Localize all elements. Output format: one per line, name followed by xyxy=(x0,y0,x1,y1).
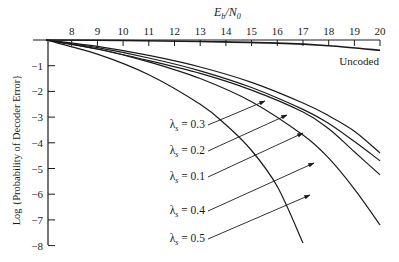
annotation-label: λs = 0.5 xyxy=(170,232,206,247)
svg-text:Eb/N0: Eb/N0 xyxy=(213,5,241,21)
x-tick-label: 15 xyxy=(246,25,258,37)
uncoded-label: Uncoded xyxy=(339,55,379,67)
annotation-arrow xyxy=(208,195,310,239)
chart: Eb/N0 891011121314151617181920 −1−2−3−4−… xyxy=(0,0,399,262)
curve---s---0-3 xyxy=(46,40,380,153)
y-axis-label: Log {Probability of Decoder Error} xyxy=(11,75,22,226)
y-tick-label: −6 xyxy=(31,188,43,200)
x-tick-label: 14 xyxy=(220,25,232,37)
y-tick-label: −3 xyxy=(31,111,43,123)
curve---s---0-4 xyxy=(46,40,380,225)
x-tick-label: 10 xyxy=(118,25,130,37)
annotations: λs = 0.3λs = 0.2λs = 0.1λs = 0.4λs = 0.5 xyxy=(170,101,314,247)
y-tick-label: −8 xyxy=(31,240,43,252)
annotation-label: λs = 0.3 xyxy=(170,118,206,133)
y-tick-label: −1 xyxy=(31,60,43,72)
annotation-label: λs = 0.2 xyxy=(170,144,206,159)
y-axis-ticks: −1−2−3−4−5−6−7−8 xyxy=(31,60,55,252)
curves xyxy=(46,40,380,243)
x-axis-ticks: 891011121314151617181920 xyxy=(69,25,386,46)
x-tick-label: 8 xyxy=(69,25,75,37)
y-tick-label: −4 xyxy=(31,137,43,149)
y-tick-label: −5 xyxy=(31,163,43,175)
annotation-label: λs = 0.1 xyxy=(170,170,206,185)
annotation-arrow xyxy=(208,101,265,125)
x-tick-label: 9 xyxy=(95,25,101,37)
x-tick-label: 12 xyxy=(169,25,180,37)
x-tick-label: 18 xyxy=(323,25,335,37)
x-tick-label: 16 xyxy=(272,25,284,37)
annotation-arrow xyxy=(208,163,314,211)
curve---s---0-2 xyxy=(46,40,380,161)
annotation-arrow xyxy=(208,133,303,177)
curve---s---0-1 xyxy=(46,40,380,175)
y-tick-label: −7 xyxy=(31,214,43,226)
x-tick-label: 20 xyxy=(375,25,387,37)
x-tick-label: 11 xyxy=(144,25,155,37)
x-axis-label: Eb/N0 xyxy=(213,5,241,21)
y-tick-label: −2 xyxy=(31,85,43,97)
x-tick-label: 13 xyxy=(195,25,207,37)
annotation-label: λs = 0.4 xyxy=(170,204,206,219)
x-tick-label: 17 xyxy=(298,25,310,37)
x-tick-label: 19 xyxy=(349,25,361,37)
